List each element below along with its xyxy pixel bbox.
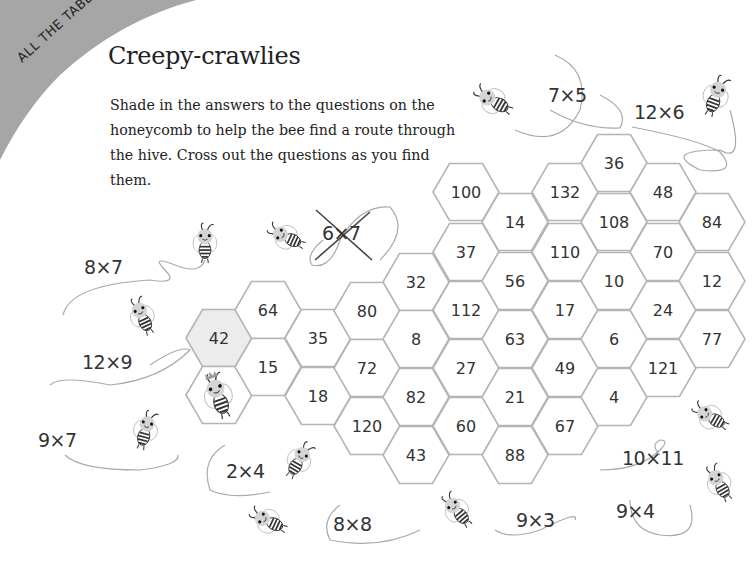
question-8x7[interactable]: 8×7 xyxy=(84,256,123,278)
svg-text:110: 110 xyxy=(550,243,581,262)
bee-icon xyxy=(699,460,740,506)
question-12x9[interactable]: 12×9 xyxy=(82,351,132,373)
svg-text:77: 77 xyxy=(702,330,722,349)
svg-text:64: 64 xyxy=(258,301,278,320)
svg-text:10: 10 xyxy=(604,272,624,291)
svg-text:27: 27 xyxy=(456,359,476,378)
bee-icon xyxy=(468,79,517,122)
svg-text:6: 6 xyxy=(609,330,619,349)
svg-text:17: 17 xyxy=(555,301,575,320)
svg-text:56: 56 xyxy=(505,272,525,291)
bee-icon xyxy=(193,223,217,263)
question-9x3[interactable]: 9×3 xyxy=(516,509,555,531)
bee-icon xyxy=(279,437,320,483)
svg-text:63: 63 xyxy=(505,330,525,349)
svg-text:35: 35 xyxy=(308,329,328,348)
svg-text:12: 12 xyxy=(702,272,722,291)
svg-text:36: 36 xyxy=(604,154,624,173)
svg-text:32: 32 xyxy=(406,273,426,292)
bee-icon xyxy=(245,502,291,540)
question-6x7-crossed[interactable]: 6×7 xyxy=(322,222,361,244)
svg-text:42: 42 xyxy=(209,329,229,348)
svg-text:43: 43 xyxy=(406,446,426,465)
question-12x6[interactable]: 12×6 xyxy=(634,101,684,123)
svg-text:132: 132 xyxy=(550,183,581,202)
svg-text:4: 4 xyxy=(609,388,619,407)
svg-text:18: 18 xyxy=(308,387,328,406)
bee-icon xyxy=(263,218,309,256)
svg-text:15: 15 xyxy=(258,358,278,377)
svg-text:112: 112 xyxy=(451,301,482,320)
svg-text:121: 121 xyxy=(648,359,679,378)
question-9x4[interactable]: 9×4 xyxy=(616,500,655,522)
svg-text:67: 67 xyxy=(555,417,575,436)
honeycomb-board: 42 64 15 35 18 80 72 120 32 8 82 43 100 … xyxy=(0,0,756,567)
svg-text:37: 37 xyxy=(456,243,476,262)
honeycomb: 42 64 15 35 18 80 72 120 32 8 82 43 100 … xyxy=(186,135,745,484)
svg-text:49: 49 xyxy=(555,359,575,378)
svg-text:8: 8 xyxy=(411,330,421,349)
question-10x11[interactable]: 10×11 xyxy=(622,447,684,469)
svg-text:21: 21 xyxy=(505,388,525,407)
svg-text:60: 60 xyxy=(456,417,476,436)
bee-icon xyxy=(123,293,161,339)
svg-text:72: 72 xyxy=(357,359,377,378)
svg-text:80: 80 xyxy=(357,302,377,321)
question-7x5[interactable]: 7×5 xyxy=(548,84,587,106)
question-8x8[interactable]: 8×8 xyxy=(333,513,372,535)
svg-text:82: 82 xyxy=(406,388,426,407)
bee-icon xyxy=(129,408,162,453)
svg-text:14: 14 xyxy=(505,213,525,232)
svg-text:108: 108 xyxy=(599,213,630,232)
svg-text:84: 84 xyxy=(702,213,722,232)
svg-text:100: 100 xyxy=(451,183,482,202)
svg-text:48: 48 xyxy=(653,183,673,202)
question-9x7[interactable]: 9×7 xyxy=(38,429,77,451)
svg-text:88: 88 xyxy=(505,446,525,465)
svg-text:120: 120 xyxy=(352,417,383,436)
svg-text:24: 24 xyxy=(653,301,673,320)
bee-icon xyxy=(435,487,479,533)
svg-text:70: 70 xyxy=(653,243,673,262)
question-2x4[interactable]: 2×4 xyxy=(226,460,265,482)
bee-icon xyxy=(687,397,733,438)
bee-icon xyxy=(697,72,735,120)
